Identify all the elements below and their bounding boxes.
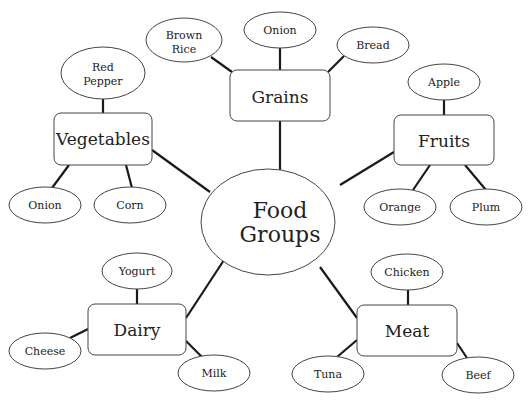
leaf-label: Rice bbox=[172, 43, 196, 56]
leaf-bread: Bread bbox=[337, 27, 409, 63]
edge-meat-beef bbox=[457, 343, 467, 358]
edge-meat-tuna bbox=[337, 340, 357, 357]
leaf-plum: Plum bbox=[450, 189, 522, 225]
category-label-grains: Grains bbox=[252, 87, 309, 107]
edge-vegetables-corn bbox=[126, 165, 132, 188]
leaf-red-pepper: Red Pepper bbox=[61, 47, 145, 99]
leaf-label: Onion bbox=[28, 199, 61, 212]
leaf-label: Tuna bbox=[314, 368, 343, 381]
leaf-label: Plum bbox=[472, 201, 501, 214]
category-dairy: Dairy bbox=[88, 304, 186, 355]
edge-center-fruits bbox=[340, 152, 394, 185]
category-label-vegetables: Vegetables bbox=[55, 129, 150, 149]
category-grains: Grains bbox=[230, 70, 330, 121]
edge-center-vegetables bbox=[152, 150, 210, 192]
center-label-line2: Groups bbox=[240, 222, 321, 247]
leaf-corn: Corn bbox=[94, 187, 166, 223]
edge-dairy-cheese bbox=[70, 329, 88, 338]
leaf-orange: Orange bbox=[364, 189, 436, 225]
category-vegetables: Vegetables bbox=[54, 113, 152, 165]
edge-vegetables-onion bbox=[52, 165, 69, 188]
leaf-label: Brown bbox=[166, 29, 202, 42]
category-fruits: Fruits bbox=[394, 115, 494, 165]
edge-grains-brown-rice bbox=[211, 57, 232, 72]
leaf-onion: Onion bbox=[9, 187, 81, 223]
category-label-fruits: Fruits bbox=[418, 131, 470, 151]
leaf-brown-rice: Brown Rice bbox=[146, 18, 222, 62]
center-node-food-groups: Food Groups bbox=[201, 169, 335, 275]
leaf-label: Corn bbox=[116, 199, 143, 212]
leaf-label: Orange bbox=[379, 201, 420, 214]
edge-center-meat bbox=[320, 267, 357, 318]
edge-center-dairy bbox=[186, 260, 224, 318]
leaf-cheese: Cheese bbox=[9, 333, 81, 369]
category-label-meat: Meat bbox=[385, 321, 430, 341]
leaf-label: Apple bbox=[427, 76, 460, 89]
edge-grains-bread bbox=[328, 56, 344, 72]
food-groups-diagram: Food Groups Grains Brown Rice Onion Brea… bbox=[0, 0, 529, 406]
leaf-label: Yogurt bbox=[118, 265, 156, 278]
leaf-label: Cheese bbox=[25, 345, 66, 358]
leaf-label: Pepper bbox=[83, 75, 123, 88]
leaf-label: Milk bbox=[202, 367, 227, 380]
edge-dairy-milk bbox=[186, 341, 202, 357]
center-label-line1: Food bbox=[253, 198, 308, 223]
leaf-tuna: Tuna bbox=[292, 356, 364, 392]
category-meat: Meat bbox=[357, 305, 457, 356]
leaf-milk: Milk bbox=[178, 355, 250, 391]
leaf-chicken: Chicken bbox=[371, 254, 443, 290]
edge-fruits-plum bbox=[465, 165, 486, 190]
leaf-label: Onion bbox=[263, 24, 296, 37]
category-label-dairy: Dairy bbox=[114, 320, 161, 340]
leaf-yogurt: Yogurt bbox=[102, 253, 172, 289]
edge-fruits-orange bbox=[413, 165, 430, 190]
leaf-label: Beef bbox=[465, 369, 491, 382]
leaf-label: Red bbox=[92, 61, 114, 74]
leaf-quinoa: Onion bbox=[244, 12, 316, 48]
leaf-beef: Beef bbox=[442, 357, 514, 393]
leaf-label: Bread bbox=[356, 39, 389, 52]
leaf-label: Chicken bbox=[384, 266, 429, 279]
leaf-apple: Apple bbox=[408, 64, 480, 100]
